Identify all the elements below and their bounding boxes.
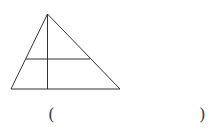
open-parenthesis: ( — [48, 106, 55, 123]
triangle-outline — [11, 14, 120, 89]
close-parenthesis: ) — [199, 106, 206, 123]
triangle-figure — [0, 0, 213, 129]
